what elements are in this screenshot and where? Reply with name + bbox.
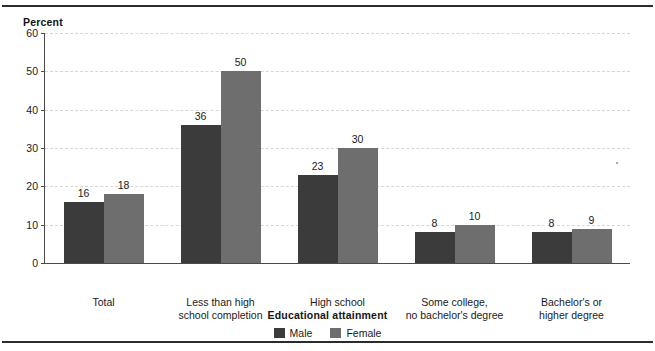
y-tick-label-40: 40: [26, 104, 38, 116]
y-tick-label-10: 10: [26, 219, 38, 231]
bar-male-4: 8: [532, 232, 572, 263]
legend-swatch-female: [330, 328, 341, 338]
y-tick-label-50: 50: [26, 65, 38, 77]
bar-female-0: 18: [104, 194, 144, 263]
x-axis-line: [44, 263, 630, 264]
scan-speck: [616, 162, 618, 164]
bar-value-label: 18: [118, 179, 130, 191]
chart-legend: MaleFemale: [0, 327, 655, 339]
legend-item-male[interactable]: Male: [274, 327, 313, 339]
y-tick-label-60: 60: [26, 27, 38, 39]
bar-value-label: 9: [589, 214, 595, 226]
bar-value-label: 50: [235, 56, 247, 68]
bar-value-label: 23: [312, 160, 324, 172]
gridline-40: [45, 110, 630, 111]
y-tick-mark-50: [41, 71, 45, 72]
y-tick-mark-0: [41, 263, 45, 264]
y-tick-mark-40: [41, 110, 45, 111]
bar-value-label: 8: [432, 217, 438, 229]
y-tick-mark-20: [41, 186, 45, 187]
bar-value-label: 36: [195, 110, 207, 122]
bar-value-label: 16: [78, 187, 90, 199]
bar-value-label: 30: [352, 133, 364, 145]
bar-value-label: 10: [469, 210, 481, 222]
y-tick-mark-60: [41, 33, 45, 34]
x-axis-title: Educational attainment: [0, 309, 655, 321]
plot-area: 0102030405060 16183650233081089 TotalLes…: [45, 33, 630, 263]
bar-chart-figure: Percent 0102030405060 16183650233081089 …: [0, 7, 655, 340]
legend-label-male: Male: [290, 327, 313, 339]
bar-female-3: 10: [455, 225, 495, 263]
bar-male-3: 8: [415, 232, 455, 263]
bar-male-1: 36: [181, 125, 221, 263]
bar-male-2: 23: [298, 175, 338, 263]
gridline-60: [45, 33, 630, 34]
y-tick-mark-30: [41, 148, 45, 149]
bar-male-0: 16: [64, 202, 104, 263]
bar-female-4: 9: [572, 229, 612, 264]
bottom-rule: [2, 341, 653, 343]
y-tick-mark-10: [41, 225, 45, 226]
y-tick-label-20: 20: [26, 180, 38, 192]
legend-swatch-male: [274, 328, 285, 338]
gridline-50: [45, 71, 630, 72]
bar-female-2: 30: [338, 148, 378, 263]
y-tick-label-0: 0: [32, 257, 38, 269]
bar-female-1: 50: [221, 71, 261, 263]
legend-label-female: Female: [346, 327, 381, 339]
bar-value-label: 8: [549, 217, 555, 229]
y-tick-label-30: 30: [26, 142, 38, 154]
legend-item-female[interactable]: Female: [330, 327, 381, 339]
